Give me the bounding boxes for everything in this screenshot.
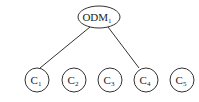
child-node-c3: C3 [98, 68, 122, 92]
child-node-c4: C4 [134, 68, 158, 92]
svg-text:ODM1: ODM1 [82, 11, 112, 25]
child-node-c1: C1 [25, 68, 49, 92]
root-label: ODM [82, 11, 108, 23]
child-node-c5: C5 [170, 68, 194, 92]
root-node-odm1: ODM1 [78, 6, 120, 28]
root-subscript: 1 [108, 17, 112, 25]
edge-odm1-c4 [108, 27, 139, 68]
tree-diagram: ODM1 C1 C2 C3 C4 C5 [0, 0, 199, 102]
child-node-c2: C2 [62, 68, 86, 92]
edge-odm1-c1 [40, 27, 90, 68]
